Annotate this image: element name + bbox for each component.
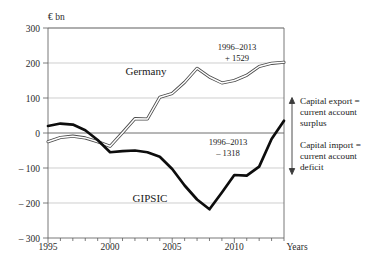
ytick-label-0: 0	[35, 129, 40, 139]
capital-import-line-3: deficit	[300, 162, 324, 172]
capital-import-annotation: Capital import = current account deficit	[300, 140, 361, 172]
ytick-label-minus-300: – 300	[18, 234, 41, 244]
ytick-label-300: 300	[26, 24, 41, 34]
capital-flow-arrow	[289, 98, 294, 175]
chart-svg: 300 200 100 0 – 100 – 200 – 300 € bn 199…	[0, 0, 384, 272]
germany-series-label: Germany	[126, 65, 167, 77]
capital-export-annotation: Capital export = current account surplus	[300, 96, 360, 128]
capital-export-line-1: Capital export =	[300, 96, 360, 106]
xtick-label-2010: 2010	[225, 242, 244, 252]
capital-export-line-2: current account	[300, 107, 357, 117]
y-axis-ticks	[43, 28, 48, 238]
germany-cumulative-annotation: 1996–2013 + 1529	[218, 42, 257, 63]
x-axis-title: Years	[286, 242, 308, 252]
x-axis-labels: 1995 2000 2005 2010 Years	[39, 242, 308, 252]
ytick-label-minus-100: – 100	[18, 164, 41, 174]
xtick-label-1995: 1995	[39, 242, 58, 252]
arrow-head-up	[289, 98, 294, 104]
y-axis-unit-label: € bn	[48, 12, 65, 22]
gipsic-annotation-period: 1996–2013	[209, 137, 248, 147]
capital-import-line-1: Capital import =	[300, 140, 361, 150]
gipsic-cumulative-annotation: 1996–2013 – 1318	[209, 137, 248, 158]
arrow-head-down	[289, 169, 294, 175]
capital-import-line-2: current account	[300, 151, 357, 161]
xtick-label-2000: 2000	[101, 242, 120, 252]
y-axis-labels: 300 200 100 0 – 100 – 200 – 300	[18, 24, 41, 244]
gipsic-annotation-value: – 1318	[215, 148, 240, 158]
ytick-label-100: 100	[26, 94, 41, 104]
gipsic-series-label: GIPSIC	[133, 192, 168, 204]
germany-annotation-value: + 1529	[225, 53, 249, 63]
xtick-label-2005: 2005	[163, 242, 182, 252]
ytick-label-minus-200: – 200	[18, 199, 41, 209]
germany-annotation-period: 1996–2013	[218, 42, 257, 52]
capital-export-line-3: surplus	[300, 118, 327, 128]
chart-container: 300 200 100 0 – 100 – 200 – 300 € bn 199…	[0, 0, 384, 272]
ytick-label-200: 200	[26, 59, 41, 69]
